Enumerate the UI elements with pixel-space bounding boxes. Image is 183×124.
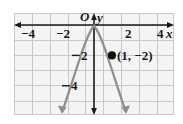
x-axis-label: x [166,27,173,40]
y-tick-label-neg4: 4 [71,79,78,92]
origin-label: O [80,10,89,23]
y-axis-label: y [97,11,103,24]
x-tick-label-neg4: −4 [21,27,35,40]
graph-figure: −4 −2 2 4 2 4 O y x (1, −2) [0,0,183,124]
x-tick-label-pos4: 4 [157,27,164,40]
coordinate-plane-svg [0,0,183,124]
marked-point-dot [108,51,116,59]
x-tick-label-pos2: 2 [125,27,132,40]
point-annotation-label: (1, −2) [117,49,153,62]
y-tick-label-neg2: 2 [81,49,88,62]
x-tick-label-neg2: −2 [56,27,70,40]
